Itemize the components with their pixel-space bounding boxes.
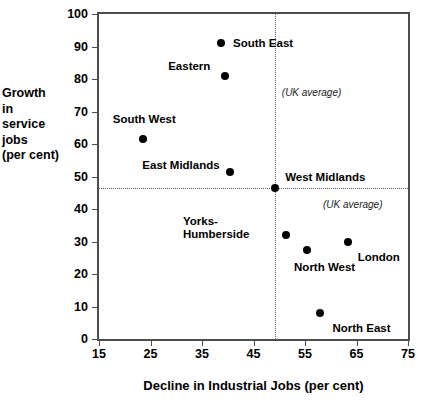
y-axis-tick-label: 40 [74,202,88,216]
data-point-label-east-midlands: East Midlands [142,159,219,172]
plot-area: 010203040506070809010015253545556575(UK … [97,12,410,341]
data-point-london[interactable] [344,238,352,246]
uk-average-horizontal [99,188,408,189]
data-point-label-west-midlands: West Midlands [285,171,365,184]
x-axis-tick-label: 45 [247,347,261,361]
data-point-south-east[interactable] [217,39,225,47]
data-point-north-east[interactable] [316,309,324,317]
y-axis-tick [92,47,99,48]
y-axis-tick [92,274,99,275]
y-axis-tick [92,242,99,243]
uk-average-vertical-annotation: (UK average) [282,87,341,98]
data-point-yorks-humberside[interactable] [282,231,290,239]
x-axis-tick [357,339,358,346]
x-axis-tick [151,339,152,346]
x-axis-tick [305,339,306,346]
y-axis-title-line-3: service [2,117,90,133]
x-axis-tick [408,339,409,346]
x-axis-title: Decline in Industrial Jobs (per cent) [97,378,410,393]
x-axis-tick-label: 15 [92,347,106,361]
x-axis-tick-label: 35 [195,347,209,361]
data-point-label-yorks-humberside: Yorks- Humberside [183,215,249,240]
y-axis-tick [92,14,99,15]
data-point-label-london: London [358,251,400,264]
y-axis-title-line-1: Growth [2,86,90,102]
y-axis-tick [92,209,99,210]
x-axis-tick [202,339,203,346]
y-axis-tick-label: 10 [74,300,88,314]
data-point-label-north-west: North West [294,261,355,274]
y-axis-tick-label: 80 [74,72,88,86]
y-axis-tick [92,79,99,80]
data-point-north-west[interactable] [303,246,311,254]
x-axis-tick-label: 25 [144,347,158,361]
y-axis-tick-label: 100 [67,7,88,21]
data-point-label-eastern: Eastern [168,60,210,73]
y-axis-tick [92,307,99,308]
y-axis-tick-label: 70 [74,105,88,119]
data-point-label-north-east: North East [332,322,390,335]
uk-average-horizontal-annotation: (UK average) [323,199,382,210]
data-point-south-west[interactable] [139,135,147,143]
y-axis-title: Growth in service jobs (per cent) [2,86,90,164]
y-axis-tick-label: 50 [74,170,88,184]
y-axis-tick [92,112,99,113]
data-point-east-midlands[interactable] [226,168,234,176]
data-point-west-midlands[interactable] [271,184,279,192]
scatter-chart: Growth in service jobs (per cent) 010203… [0,0,433,408]
y-axis-tick [92,339,99,340]
x-axis-tick [99,339,100,346]
data-point-label-south-east: South East [233,37,293,50]
x-axis-tick-label: 75 [401,347,415,361]
y-axis-tick-label: 90 [74,40,88,54]
y-axis-tick-label: 20 [74,267,88,281]
y-axis-tick-label: 30 [74,235,88,249]
y-axis-tick-label: 0 [81,332,88,346]
y-axis-tick [92,177,99,178]
data-point-label-south-west: South West [113,113,176,126]
data-point-eastern[interactable] [221,72,229,80]
x-axis-tick-label: 55 [298,347,312,361]
uk-average-vertical [275,14,276,339]
x-axis-tick-label: 65 [350,347,364,361]
x-axis-tick [254,339,255,346]
y-axis-tick-label: 60 [74,137,88,151]
y-axis-tick [92,144,99,145]
